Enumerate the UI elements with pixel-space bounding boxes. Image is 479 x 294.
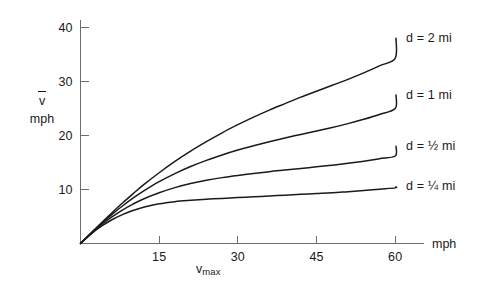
series-label: d = ¼ mi bbox=[406, 180, 456, 193]
x-tick-label: 30 bbox=[218, 251, 258, 264]
series-label: d = 2 mi bbox=[406, 32, 452, 45]
data-series-lines bbox=[81, 38, 397, 243]
series-label: d = 1 mi bbox=[406, 89, 452, 102]
x-axis-unit: mph bbox=[432, 238, 456, 251]
x-tick-label: 60 bbox=[375, 251, 415, 264]
y-axis-unit: mph bbox=[18, 110, 66, 128]
y-tick-label: 30 bbox=[41, 76, 73, 89]
x-tick-label: 45 bbox=[297, 251, 337, 264]
series-curve bbox=[81, 187, 397, 244]
axis-group bbox=[81, 20, 425, 244]
series-curve bbox=[81, 95, 397, 244]
y-axis-symbol-text: v bbox=[39, 94, 45, 108]
x-axis-symbol-subscript: max bbox=[202, 266, 221, 277]
tick-marks bbox=[81, 28, 396, 244]
y-axis-symbol: v bbox=[18, 92, 66, 110]
y-tick-label: 40 bbox=[41, 22, 73, 35]
y-tick-label: 20 bbox=[41, 130, 73, 143]
y-tick-label: 10 bbox=[41, 184, 73, 197]
x-axis-title: vmax bbox=[196, 263, 221, 277]
y-axis-title: v mph bbox=[18, 92, 66, 128]
series-curve bbox=[81, 146, 397, 243]
chart-figure: v mph vmax mph 1020304015304560 d = 2 mi… bbox=[0, 0, 479, 294]
series-label: d = ½ mi bbox=[406, 140, 456, 153]
x-tick-label: 15 bbox=[139, 251, 179, 264]
